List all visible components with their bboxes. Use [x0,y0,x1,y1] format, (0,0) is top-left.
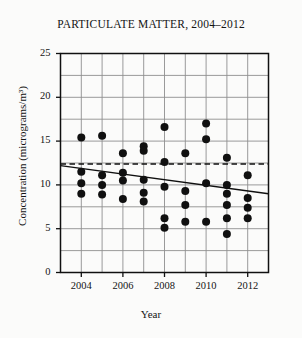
y-tick-label: 0 [21,266,51,277]
x-tick-label: 2012 [228,280,268,291]
y-tick-label: 5 [21,222,51,233]
y-tick-label: 10 [21,178,51,189]
y-tick-label: 20 [21,90,51,101]
y-tick-label: 15 [21,134,51,145]
x-tick-label: 2010 [186,280,226,291]
tick-marks [56,54,248,278]
x-tick-label: 2004 [61,280,101,291]
x-tick-label: 2008 [145,280,185,291]
x-tick-label: 2006 [103,280,143,291]
chart-figure: PARTICULATE MATTER, 2004–2012 Concentrat… [0,0,302,338]
y-tick-label: 25 [21,47,51,58]
